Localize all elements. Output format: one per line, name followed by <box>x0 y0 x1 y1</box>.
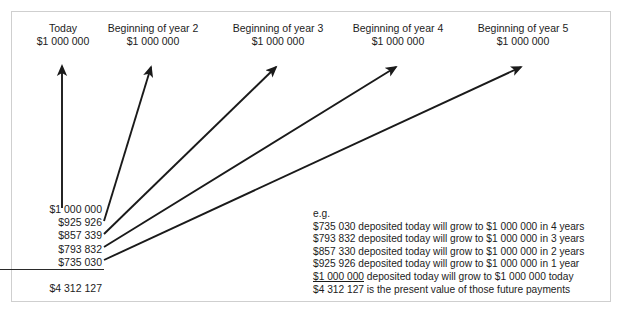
note-intro: e.g. <box>313 208 584 221</box>
column-header-label: Today <box>18 22 108 35</box>
note-line-underlined: $1 000 000 deposited today will grow to … <box>313 271 584 284</box>
column-header-amount: $1 000 000 <box>221 35 335 48</box>
note-total-line: $4 312 127 is the present value of those… <box>313 284 584 297</box>
column-header-label: Beginning of year 2 <box>96 22 210 35</box>
note-underlined-rest: deposited today will grow to $1 000 000 … <box>364 271 574 282</box>
note-line: $857 330 deposited today will grow to $1… <box>313 246 584 259</box>
column-header-year-4: Beginning of year 4 $1 000 000 <box>341 22 455 48</box>
note-underlined-amount: $1 000 000 <box>313 271 364 282</box>
explanation-notes: e.g. $735 030 deposited today will grow … <box>313 208 584 296</box>
note-line: $925 926 deposited today will grow to $1… <box>313 258 584 271</box>
present-value-item: $857 339 <box>0 229 104 242</box>
column-header-amount: $1 000 000 <box>18 35 108 48</box>
present-value-item: $925 926 <box>0 216 104 229</box>
column-header-label: Beginning of year 5 <box>466 22 580 35</box>
column-header-today: Today $1 000 000 <box>18 22 108 48</box>
column-header-year-5: Beginning of year 5 $1 000 000 <box>466 22 580 48</box>
column-header-label: Beginning of year 4 <box>341 22 455 35</box>
column-header-amount: $1 000 000 <box>466 35 580 48</box>
present-value-diagram: Today $1 000 000 Beginning of year 2 $1 … <box>0 0 627 322</box>
column-header-amount: $1 000 000 <box>341 35 455 48</box>
present-value-list: $1 000 000 $925 926 $857 339 $793 832 $7… <box>0 203 104 270</box>
present-value-item: $735 030 <box>0 256 104 270</box>
note-line: $735 030 deposited today will grow to $1… <box>313 221 584 234</box>
column-header-year-2: Beginning of year 2 $1 000 000 <box>96 22 210 48</box>
column-header-label: Beginning of year 3 <box>221 22 335 35</box>
present-value-item: $1 000 000 <box>0 203 104 216</box>
present-value-total: $4 312 127 <box>0 282 102 295</box>
note-line: $793 832 deposited today will grow to $1… <box>313 233 584 246</box>
column-header-year-3: Beginning of year 3 $1 000 000 <box>221 22 335 48</box>
present-value-item: $793 832 <box>0 243 104 256</box>
column-header-amount: $1 000 000 <box>96 35 210 48</box>
